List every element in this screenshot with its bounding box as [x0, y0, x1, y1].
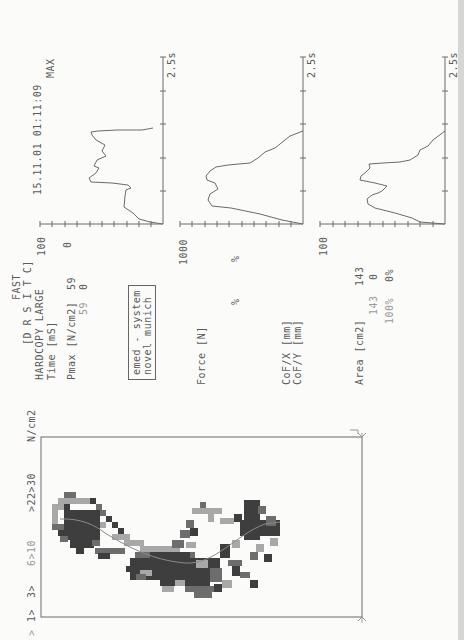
- pmax-zero-value: 0: [78, 283, 89, 290]
- pmax-curve: [89, 128, 163, 224]
- legend-level-1: 1>: [26, 609, 37, 622]
- footprint-pressure-map: [52, 492, 280, 598]
- force-pct-2: %: [230, 298, 241, 305]
- pmax-time-end-label: 2.5s: [166, 52, 177, 78]
- speed-label: FAST: [11, 274, 22, 300]
- area-sub-value: 143: [368, 295, 379, 315]
- vendor-box: emed - system novel munich: [128, 285, 156, 380]
- force-graph: [180, 57, 306, 227]
- force-pct-1: %: [230, 255, 241, 262]
- area-pct-full: 100%: [384, 298, 395, 324]
- area-curve: [360, 131, 445, 224]
- area-zero-value: 0: [368, 273, 379, 280]
- drsit-label: [D R S I T C]: [22, 260, 33, 345]
- hardcopy-label: HARDCOPY LARGE: [34, 289, 45, 380]
- cof-x-label: CoF/X [mm]: [281, 320, 292, 385]
- force-time-end-label: 2.5s: [306, 52, 317, 78]
- vendor-line-1: emed - system: [131, 290, 142, 375]
- pmax-axis-zero: 0: [62, 241, 73, 248]
- vendor-line-2: novel munich: [142, 297, 153, 375]
- legend-level-3: 6>10: [26, 540, 37, 566]
- force-axis-max: 1000: [178, 239, 189, 265]
- force-curve: [206, 131, 303, 224]
- datetime-label: 15.11.01 01:11:09: [32, 84, 43, 195]
- legend-arrow: >: [26, 629, 37, 636]
- mode-label: MAX: [45, 58, 56, 78]
- pmax-axis-max: 100: [36, 236, 47, 256]
- legend-level-2: 3>: [26, 585, 37, 598]
- pmax-graph: [40, 57, 166, 227]
- orientation-arrow-icon: [350, 430, 366, 437]
- pmax-value: 59: [66, 277, 77, 290]
- legend-unit: N/cm2: [26, 409, 37, 442]
- area-label: Area [cm2]: [354, 320, 365, 385]
- area-graph: [320, 57, 448, 227]
- time-unit-label: Time [mS]: [46, 321, 57, 380]
- pmax-sub-value: 59: [78, 302, 89, 315]
- area-value: 143: [354, 266, 365, 286]
- legend-level-4: >22>30: [26, 473, 37, 512]
- cof-y-label: CoF/Y [mm]: [292, 320, 303, 385]
- force-label: Force [N]: [196, 326, 207, 385]
- pmax-label: Pmax [N/cm2]: [66, 302, 77, 380]
- area-pct-zero: 0%: [384, 269, 395, 282]
- corner-marker-icon: [358, 617, 366, 623]
- area-axis-max: 100: [318, 236, 329, 256]
- area-time-end-label: 2.5s: [448, 52, 459, 78]
